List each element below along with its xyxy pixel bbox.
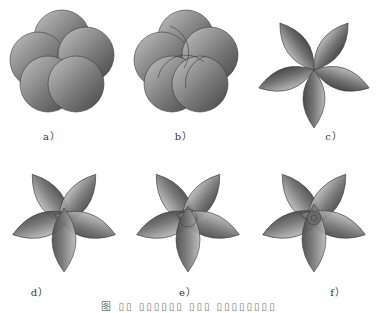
panel-label-c: c）	[314, 128, 354, 143]
panel-label-d: d）	[20, 284, 60, 299]
panel-d: d）	[0, 150, 126, 300]
overlapping-circles-arcs-figure	[124, 0, 250, 140]
panel-label-e: e）	[168, 284, 208, 299]
five-petals-center-knot-figure	[250, 150, 378, 300]
five-petals-center-arcs-figure	[124, 150, 250, 300]
panel-f: f）	[250, 150, 378, 300]
panel-label-f: f）	[318, 284, 358, 299]
panel-c: c）	[250, 0, 378, 140]
panel-label-b: b）	[164, 128, 204, 143]
panel-a: a）	[0, 0, 126, 140]
five-petals-figure	[250, 0, 378, 140]
panel-label-a: a）	[32, 128, 72, 143]
panel-e: e）	[124, 150, 250, 300]
panel-b: b）	[124, 0, 250, 140]
five-petals-overlap-figure	[0, 150, 126, 300]
figure-caption: 图 ▯▯ ▯▯▯▯▯▯ ▯▯▯ ▯▯▯▯▯▯▯▯	[0, 298, 378, 313]
overlapping-circles-figure	[0, 0, 126, 140]
